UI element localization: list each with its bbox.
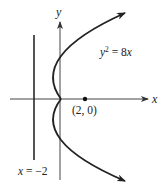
equation-rhs: = 8: [109, 46, 127, 58]
x-axis-label: x: [151, 92, 158, 106]
focus-point: [83, 97, 87, 101]
equation-label: y2 = 8x: [99, 45, 133, 59]
y-axis-label: y: [55, 5, 62, 19]
directrix-label: x = −2: [17, 165, 48, 177]
parabola-diagram: x y x = −2 y2 = 8x (2, 0): [0, 0, 167, 192]
focus-label: (2, 0): [72, 104, 97, 117]
directrix-label-rest: = −2: [23, 165, 48, 177]
equation-var: x: [126, 46, 133, 58]
